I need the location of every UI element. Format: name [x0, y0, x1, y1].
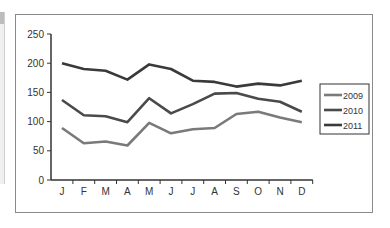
x-axis: JFMAMJJASOND — [51, 180, 313, 197]
legend[interactable]: 200920102011 — [320, 84, 369, 134]
x-tick-label: F — [81, 186, 87, 197]
series-line-2010[interactable] — [62, 93, 302, 122]
line-chart: 050100150200250 JFMAMJJASOND 20092010201… — [0, 0, 390, 228]
x-tick-label: D — [298, 186, 305, 197]
y-tick-label: 0 — [38, 175, 44, 186]
x-tick-label: J — [190, 186, 195, 197]
x-tick-label: N — [276, 186, 283, 197]
legend-label-2009: 2009 — [343, 91, 363, 101]
legend-label-2010: 2010 — [343, 106, 363, 116]
y-tick-label: 50 — [33, 145, 45, 156]
y-tick-label: 200 — [27, 58, 44, 69]
x-tick-label: A — [211, 186, 218, 197]
x-tick-label: M — [101, 186, 109, 197]
legend-label-2011: 2011 — [343, 121, 362, 131]
x-tick-label: J — [169, 186, 174, 197]
y-tick-label: 150 — [27, 87, 44, 98]
y-axis: 050100150200250 — [27, 29, 51, 186]
x-tick-label: S — [233, 186, 240, 197]
x-tick-label: O — [254, 186, 262, 197]
y-tick-label: 100 — [27, 116, 44, 127]
y-tick-label: 250 — [27, 29, 44, 40]
x-tick-label: J — [60, 186, 65, 197]
x-tick-label: M — [145, 186, 153, 197]
series-line-2011[interactable] — [62, 63, 302, 86]
plot-lines — [62, 63, 302, 145]
x-tick-label: A — [124, 186, 131, 197]
